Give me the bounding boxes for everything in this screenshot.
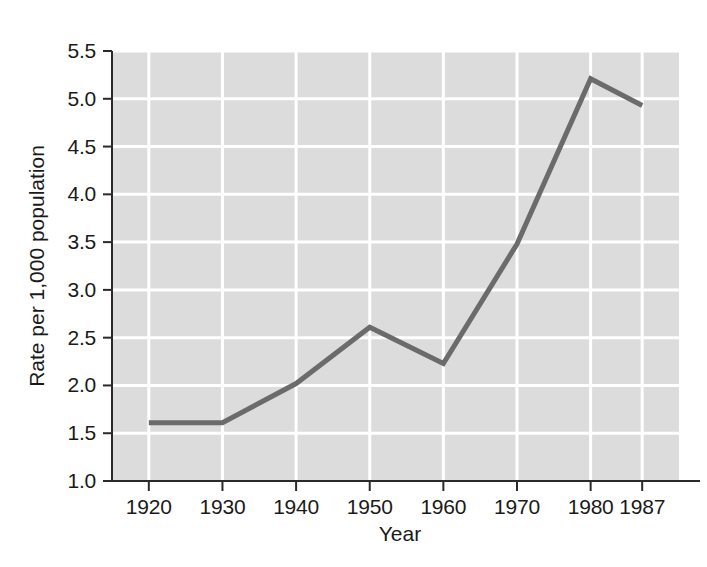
x-axis-tick-label: 1920 [126,495,172,518]
y-axis-tick-label: 2.0 [67,373,96,396]
y-axis-tick-label: 1.5 [67,421,96,444]
x-axis-tick-label: 1930 [199,495,245,518]
y-axis-tick-label: 3.0 [67,278,96,301]
x-axis-title: Year [379,522,421,545]
x-axis-tick-label: 1950 [347,495,393,518]
x-axis-tick-label: 1940 [273,495,319,518]
line-chart: 5.55.04.54.03.53.02.52.01.51.0 192019301… [0,0,707,567]
y-axis-tick-label: 5.5 [67,39,96,62]
x-axis-tick-label: 1960 [420,495,466,518]
plot-area-background [112,51,679,481]
y-axis-tick-label: 4.5 [67,135,96,158]
y-axis-tick-label: 5.0 [67,87,96,110]
chart-figure: 5.55.04.54.03.53.02.52.01.51.0 192019301… [0,0,707,567]
x-axis-tick-label: 1970 [494,495,540,518]
y-axis-tick-label: 2.5 [67,326,96,349]
x-axis-tick-label: 1987 [619,495,665,518]
y-axis-tick-label: 4.0 [67,182,96,205]
y-axis-tick-label: 1.0 [67,469,96,492]
y-axis-title: Rate per 1,000 population [25,145,48,387]
x-axis-tick-label: 1980 [568,495,614,518]
y-axis-tick-label: 3.5 [67,230,96,253]
